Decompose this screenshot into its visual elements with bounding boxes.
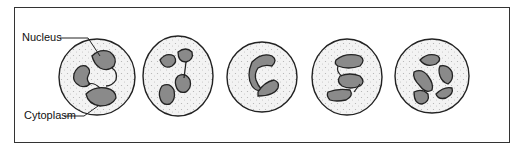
nucleus-label: Nucleus — [22, 32, 62, 43]
cells-illustration — [0, 0, 525, 151]
cell-1 — [59, 39, 135, 115]
cytoplasm-label: Cytoplasm — [24, 110, 76, 121]
cell-2 — [143, 36, 213, 116]
cell-3 — [227, 42, 297, 112]
cell-5 — [395, 39, 469, 113]
cell-4 — [312, 39, 382, 115]
